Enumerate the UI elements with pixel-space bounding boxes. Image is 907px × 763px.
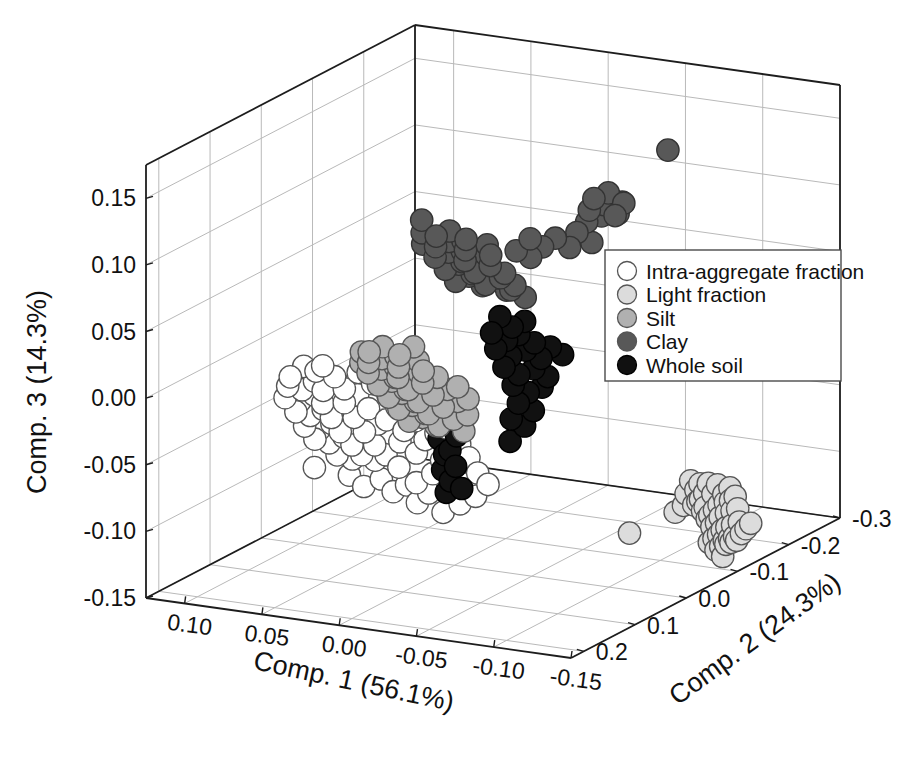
data-point bbox=[480, 322, 502, 344]
xtick-5: -0.15 bbox=[548, 663, 603, 696]
xtick-2: 0.00 bbox=[320, 631, 368, 663]
data-point bbox=[388, 344, 410, 366]
ztick-3: -0.1 bbox=[750, 559, 790, 585]
data-point bbox=[444, 455, 466, 477]
legend-label-3: Clay bbox=[646, 330, 689, 353]
data-point bbox=[312, 355, 334, 377]
plot-svg: 0.150.100.050.00-0.05-0.10-0.150.100.050… bbox=[0, 0, 907, 763]
legend-box[interactable]: Intra-aggregate fractionLight fractionSi… bbox=[605, 250, 864, 381]
data-point bbox=[447, 376, 469, 398]
data-point bbox=[358, 341, 380, 363]
ztick-2: 0.0 bbox=[698, 586, 730, 612]
data-point bbox=[303, 456, 325, 478]
xtick-4: -0.10 bbox=[471, 652, 526, 685]
data-point bbox=[451, 477, 473, 499]
legend-label-0: Intra-aggregate fraction bbox=[646, 260, 864, 283]
ztick-5: -0.3 bbox=[852, 506, 892, 532]
legend-label-4: Whole soil bbox=[646, 354, 743, 377]
legend-label-1: Light fraction bbox=[646, 283, 766, 306]
ytick-6: -0.15 bbox=[84, 585, 136, 611]
xtick-3: -0.05 bbox=[394, 641, 449, 674]
ytick-3: 0.00 bbox=[91, 385, 136, 411]
data-point bbox=[477, 473, 499, 495]
ztick-0: 0.2 bbox=[596, 639, 628, 665]
ztick-4: -0.2 bbox=[801, 533, 841, 559]
data-point bbox=[425, 225, 447, 247]
xtick-0: 0.10 bbox=[166, 609, 214, 641]
ytick-5: -0.10 bbox=[84, 518, 136, 544]
legend-label-2: Silt bbox=[646, 307, 675, 330]
data-point bbox=[279, 366, 301, 388]
legend-marker-1 bbox=[618, 285, 637, 304]
axis-title-comp3: Comp. 3 (14.3%) bbox=[22, 290, 52, 494]
data-point bbox=[583, 187, 605, 209]
data-point bbox=[519, 228, 541, 250]
data-point bbox=[480, 244, 502, 266]
ytick-0: 0.15 bbox=[91, 185, 136, 211]
figure-3d-pca-scatter: 0.150.100.050.00-0.05-0.10-0.150.100.050… bbox=[0, 0, 907, 763]
data-point bbox=[657, 139, 679, 161]
data-point bbox=[618, 522, 640, 544]
legend-marker-3 bbox=[618, 332, 637, 351]
data-point bbox=[604, 204, 626, 226]
data-point bbox=[740, 512, 762, 534]
legend-marker-2 bbox=[618, 309, 637, 328]
ytick-1: 0.10 bbox=[91, 252, 136, 278]
ytick-2: 0.05 bbox=[91, 319, 136, 345]
ztick-1: 0.1 bbox=[647, 613, 679, 639]
ytick-4: -0.05 bbox=[84, 452, 136, 478]
legend-marker-0 bbox=[618, 262, 637, 281]
legend-marker-4 bbox=[618, 356, 637, 375]
data-point bbox=[455, 228, 477, 250]
data-point bbox=[412, 360, 434, 382]
